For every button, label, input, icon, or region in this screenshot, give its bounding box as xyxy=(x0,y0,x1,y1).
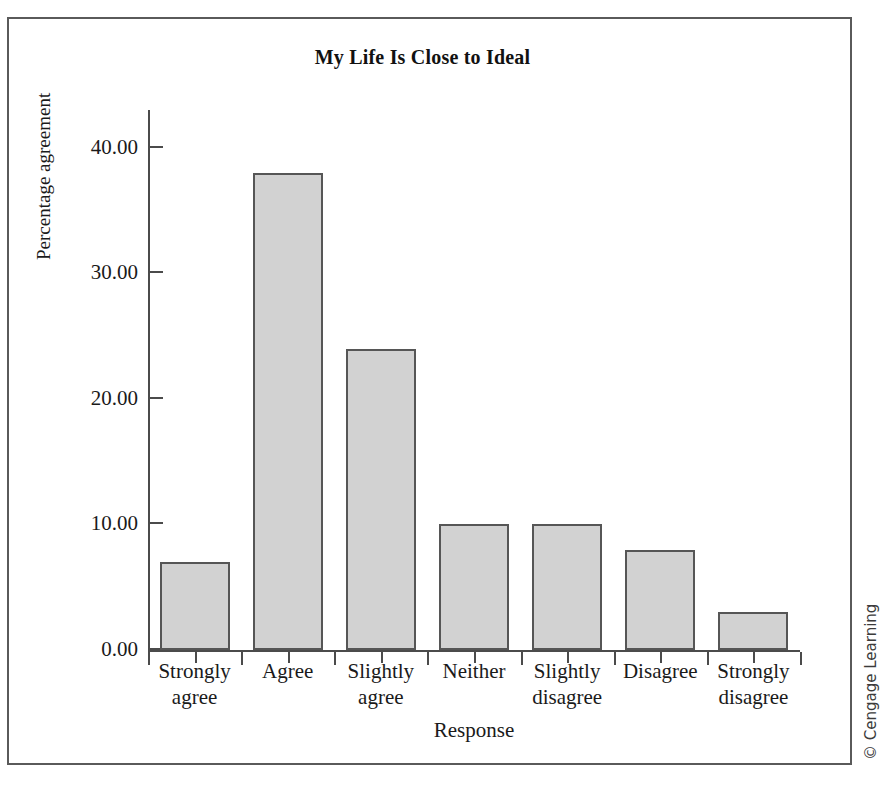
bar xyxy=(160,562,230,650)
bar-slot xyxy=(439,524,509,650)
y-axis-line xyxy=(148,110,150,652)
x-axis-category-label: Agree xyxy=(241,658,334,684)
x-axis-boundary-tick xyxy=(800,652,802,665)
y-axis-tick-label: 20.00 xyxy=(91,386,138,411)
x-axis-category-label: Stronglyagree xyxy=(148,658,241,710)
copyright-notice: © Cengage Learning xyxy=(862,604,880,760)
bar-slot xyxy=(160,562,230,650)
y-axis-tick: 40.00 xyxy=(150,146,163,148)
y-axis-tick-label: 40.00 xyxy=(91,135,138,160)
bar xyxy=(346,349,416,650)
bar-slot xyxy=(253,173,323,650)
bar xyxy=(532,524,602,650)
y-axis-tick: 30.00 xyxy=(150,271,163,273)
x-axis-title: Response xyxy=(148,718,800,743)
y-axis-title: Percentage agreement xyxy=(33,93,55,260)
bar xyxy=(625,550,695,650)
bar-slot xyxy=(625,550,695,650)
plot-area: 0.0010.0020.0030.0040.00 xyxy=(148,110,800,652)
x-axis-category-label: Neither xyxy=(427,658,520,684)
chart-title: My Life Is Close to Ideal xyxy=(0,46,845,69)
figure: My Life Is Close to Ideal Percentage agr… xyxy=(0,0,885,789)
y-axis-tick-label: 30.00 xyxy=(91,260,138,285)
x-axis-category-label: Slightlyagree xyxy=(334,658,427,710)
y-axis-tick: 20.00 xyxy=(150,397,163,399)
bar-slot xyxy=(532,524,602,650)
bar-slot xyxy=(718,612,788,650)
bar xyxy=(439,524,509,650)
y-axis-tick-label: 10.00 xyxy=(91,511,138,536)
y-axis-tick: 10.00 xyxy=(150,522,163,524)
y-axis-tick-label: 0.00 xyxy=(101,637,138,662)
x-axis-category-label: Slightlydisagree xyxy=(521,658,614,710)
bar xyxy=(718,612,788,650)
bar xyxy=(253,173,323,650)
x-axis-category-label: Disagree xyxy=(614,658,707,684)
bar-slot xyxy=(346,349,416,650)
x-axis-category-label: Stronglydisagree xyxy=(707,658,800,710)
